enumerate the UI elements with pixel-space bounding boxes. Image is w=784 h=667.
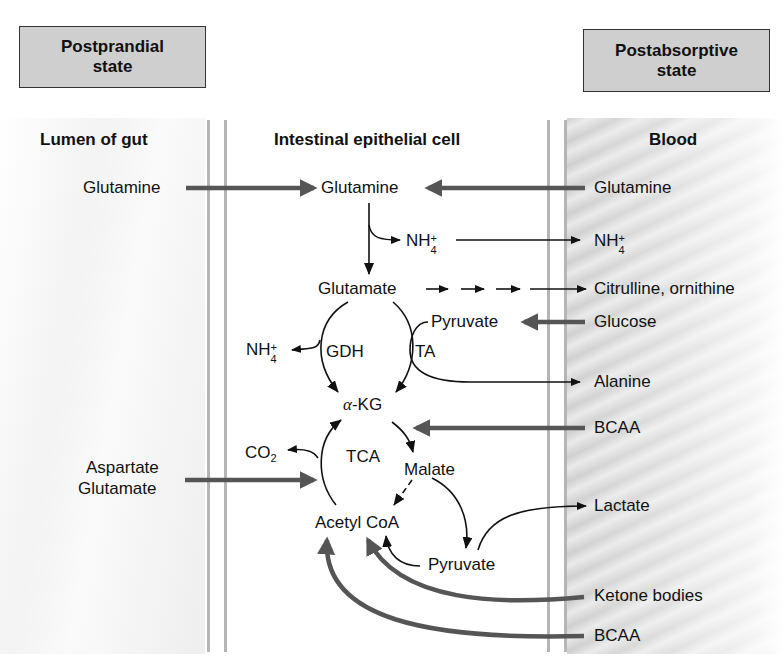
cell-pyruvate-top-label: Pyruvate: [431, 312, 498, 332]
arrows-layer: [0, 0, 784, 667]
co2-text: CO: [245, 443, 271, 462]
gdh-enzyme-label: GDH: [326, 342, 364, 362]
arrow-malate-to-pyruvate: [432, 478, 467, 548]
co2-label: CO2: [245, 443, 277, 468]
co2-subscript: 2: [271, 452, 277, 464]
citrulline-ornithine-label: Citrulline, ornithine: [594, 279, 735, 299]
arrow-pyruvate-to-lactate: [478, 506, 586, 550]
kg-text: -KG: [352, 395, 382, 414]
arrow-tca-to-co2: [288, 449, 318, 458]
ta-enzyme-label: TA: [415, 342, 435, 362]
metabolism-diagram: Postprandial state Postabsorptive state …: [0, 0, 784, 667]
lumen-glutamate-label: Glutamate: [78, 479, 156, 499]
acetyl-coa-label: Acetyl CoA: [315, 513, 399, 533]
alanine-label: Alanine: [594, 372, 651, 392]
lactate-label: Lactate: [594, 496, 650, 516]
blood-bcaa-top-label: BCAA: [594, 418, 640, 438]
alpha-kg-label: α-KG: [343, 395, 382, 415]
cell-glutamate-label: Glutamate: [318, 279, 396, 299]
nh4-text: NH: [406, 231, 431, 250]
cell-nh4-label: NH+4: [406, 231, 440, 251]
cell-nh4-gdh-label: NH+4: [246, 340, 280, 360]
malate-label: Malate: [404, 460, 455, 480]
lumen-glutamine-label: Glutamine: [83, 178, 160, 198]
blood-bcaa-bottom-label: BCAA: [594, 626, 640, 646]
glucose-label: Glucose: [594, 312, 656, 332]
cell-glutamine-label: Glutamine: [321, 178, 398, 198]
arrow-gdh-to-nh4: [292, 340, 320, 350]
nh4-subscript: 4: [431, 240, 437, 260]
blood-glutamine-label: Glutamine: [594, 178, 671, 198]
arrow-pyruvate-to-acetylcoa: [386, 536, 420, 566]
nh4-subscript: 4: [619, 240, 625, 260]
arrow-akg-to-malate: [392, 422, 413, 452]
nh4-text: NH: [246, 340, 271, 359]
blood-nh4-label: NH+4: [594, 231, 628, 251]
alpha-symbol: α: [343, 395, 352, 414]
arrow-acetylcoa-to-akg: [321, 420, 341, 505]
arrow-malate-to-acetylcoa-dashed: [394, 480, 412, 505]
cell-pyruvate-bottom-label: Pyruvate: [428, 555, 495, 575]
nh4-subscript: 4: [271, 349, 277, 369]
ketone-bodies-label: Ketone bodies: [594, 586, 703, 606]
arrow-glutamine-to-nh4: [369, 225, 400, 240]
tca-cycle-label: TCA: [346, 447, 380, 467]
nh4-text: NH: [594, 231, 619, 250]
lumen-aspartate-label: Aspartate: [86, 458, 159, 478]
